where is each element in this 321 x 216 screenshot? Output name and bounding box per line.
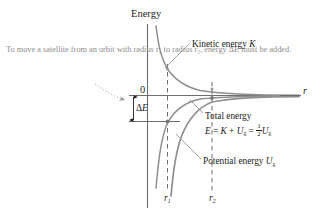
kinetic-symbol: K [249, 39, 255, 49]
potential-symbol: U [266, 156, 273, 166]
curve-kinetic-energy [156, 26, 299, 95]
marker-kinetic-at-r1 [166, 68, 169, 71]
delta-e-variable: E [142, 103, 148, 113]
annotation-text: To move a satellite from an orbit with r… [6, 44, 128, 56]
kinetic-text: Kinetic energy [192, 39, 249, 49]
eq-equals-2: = [246, 126, 256, 136]
marker-total-at-r1 [166, 120, 170, 124]
eq-U2-subscript: g [268, 130, 271, 136]
curve-total-energy [156, 96, 299, 188]
tick-label-r1: r1 [164, 193, 171, 205]
y-axis-label: Energy [131, 8, 161, 20]
delta-e-label: ΔE [136, 103, 148, 114]
eq-plus: + [227, 126, 237, 136]
tick-r1-subscript: 1 [168, 198, 171, 204]
tick-r2-subscript: 2 [213, 198, 216, 204]
annotation-leader-line [95, 84, 125, 100]
marker-kinetic-at-r2 [211, 88, 214, 91]
eq-equals: = [211, 126, 221, 136]
label-total-energy-equation: E = K + Ug = 12Ug [205, 123, 271, 138]
leader-potential [176, 134, 201, 159]
origin-label: 0 [140, 84, 145, 96]
label-kinetic-energy: Kinetic energy K [192, 39, 255, 50]
label-potential-energy: Potential energy Ug [203, 156, 275, 167]
tick-label-r2: r2 [209, 193, 216, 205]
potential-text: Potential energy [203, 156, 266, 166]
energy-orbit-diagram [0, 0, 321, 216]
label-total-energy: Total energy [205, 111, 251, 122]
marker-total-at-r2 [210, 96, 214, 100]
potential-subscript: g [273, 161, 276, 167]
x-axis-label: r [303, 85, 307, 97]
